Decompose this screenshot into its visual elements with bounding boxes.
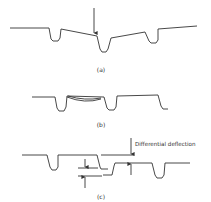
- profile-b: [32, 95, 168, 111]
- panel-b-label: (b): [97, 121, 106, 128]
- panel-c-label: (c): [97, 193, 105, 200]
- panel-b: (b): [32, 95, 168, 128]
- profile-c-lower: [103, 163, 190, 178]
- profile-a: [10, 26, 197, 52]
- panel-a-label: (a): [97, 66, 105, 73]
- panel-c: Differential deflection (c): [22, 138, 196, 200]
- deflection-diagram: (a) (b) Differential deflection (c): [0, 0, 211, 202]
- panel-a: (a): [10, 8, 197, 73]
- differential-deflection-label: Differential deflection: [135, 141, 196, 147]
